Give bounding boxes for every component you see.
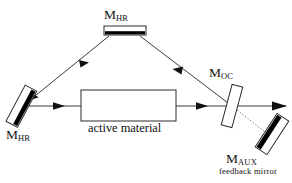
label-moc-sub: OC bbox=[221, 71, 233, 81]
mirror-auxiliary bbox=[255, 113, 289, 154]
beam-active-material-to-output-coupler bbox=[176, 102, 229, 109]
arrowhead-down-left bbox=[79, 60, 89, 68]
label-mirror-auxiliary: MAUX bbox=[226, 150, 257, 167]
beam-output bbox=[236, 102, 287, 111]
arrowhead-right bbox=[196, 102, 208, 109]
label-mhr-top-sub: HR bbox=[116, 13, 128, 23]
label-mhr-top-main: M bbox=[104, 7, 116, 22]
label-maux-main: M bbox=[226, 151, 238, 166]
label-mirror-hr-top: MHR bbox=[104, 6, 128, 23]
mirror-hr-top bbox=[104, 26, 146, 35]
label-active-material: active material bbox=[88, 122, 161, 134]
label-mirror-output-coupler: MOC bbox=[209, 64, 233, 81]
label-moc-main: M bbox=[209, 65, 221, 80]
label-mhr-left-main: M bbox=[6, 127, 18, 142]
arrowhead-down-right bbox=[173, 67, 184, 75]
label-mhr-left-sub: HR bbox=[18, 133, 30, 143]
label-feedback-mirror-caption: feedback mirror bbox=[219, 167, 277, 176]
arrowhead-output bbox=[272, 102, 287, 111]
active-material-box bbox=[81, 90, 176, 121]
arrowhead-right bbox=[53, 102, 65, 109]
label-mirror-hr-left: MHR bbox=[6, 126, 30, 143]
beam-left-mirror-to-active-material bbox=[22, 102, 81, 109]
mirror-hr-top-coating bbox=[105, 31, 145, 34]
optical-diagram: MHR MHR MOC MAUX feedback mirror active … bbox=[0, 0, 292, 183]
